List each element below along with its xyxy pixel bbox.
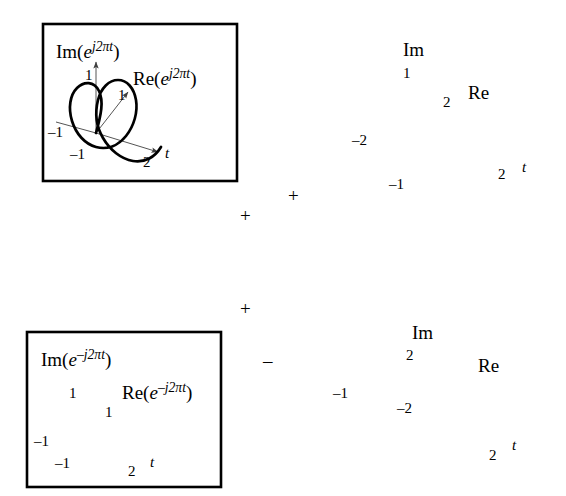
- block-bottom-tick-im-pos: 1: [69, 386, 77, 401]
- adder-sum-top-sign: +: [288, 186, 299, 205]
- block-top-tick-re-pos: 1: [118, 88, 126, 103]
- block-bottom-tick-t: 2: [128, 464, 136, 479]
- plot-sine-re-label: Re: [478, 356, 499, 375]
- block-top-t-axis-label: t: [165, 146, 169, 161]
- block-top-tick-t: 2: [143, 155, 151, 170]
- block-bottom-t-axis-label: t: [150, 455, 154, 470]
- plot-cosine-tick-im-pos: 1: [403, 66, 411, 81]
- plot-sine-tick-t: 2: [489, 448, 497, 463]
- block-top-im-label: Im(ej2πt): [56, 40, 120, 61]
- block-top-tick-re-neg: –1: [48, 125, 63, 140]
- adder-sum-left-sign: +: [240, 206, 251, 225]
- adder-difference-bottom-sign: –: [263, 351, 273, 370]
- diagram-root: Im(ej2πt) Re(ej2πt) 1 1 –1 –1 2 t Im(e–j…: [0, 0, 566, 496]
- plot-cosine-tick-t: 2: [498, 167, 506, 182]
- plot-sine-tick-re-neg: –1: [333, 386, 348, 401]
- plot-cosine-tick-re-neg: –2: [352, 133, 367, 148]
- plot-cosine-tick-im-neg: –1: [389, 177, 404, 192]
- plot-cosine-re-label: Re: [468, 83, 489, 102]
- block-top-re-label: Re(ej2πt): [133, 67, 197, 88]
- block-bottom-tick-re-pos: 1: [105, 405, 113, 420]
- block-bottom-im-label: Im(e–j2πt): [41, 348, 111, 369]
- block-bottom-re-label: Re(e–j2πt): [122, 381, 192, 402]
- plot-cosine-t-axis-label: t: [522, 160, 526, 175]
- block-top-tick-im-neg: –1: [70, 147, 85, 162]
- plot-cosine-tick-re-pos: 2: [443, 95, 451, 110]
- block-bottom-tick-re-neg: –1: [34, 434, 49, 449]
- block-bottom-tick-im-neg: –1: [55, 456, 70, 471]
- block-top-tick-im-pos: 1: [85, 68, 93, 83]
- plot-sine-t-axis-label: t: [512, 438, 516, 453]
- plot-sine-im-label: Im: [412, 323, 433, 342]
- plot-sine-tick-im-neg: –2: [397, 401, 412, 416]
- plot-sine-tick-im-pos: 2: [406, 348, 414, 363]
- adder-difference-left-sign: +: [240, 299, 251, 318]
- plot-cosine-im-label: Im: [403, 40, 424, 59]
